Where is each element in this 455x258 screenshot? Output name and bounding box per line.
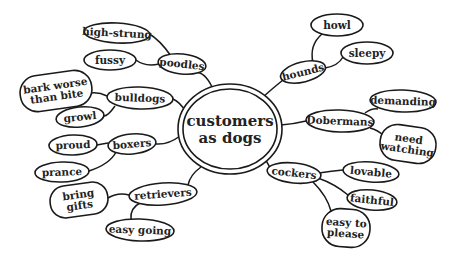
edge-poodles-to-fussy bbox=[136, 60, 159, 65]
edge-retrievers-to-bring-gifts bbox=[108, 194, 129, 198]
edge-hounds-to-howl bbox=[312, 34, 322, 63]
node-label: fussy bbox=[95, 54, 126, 66]
node-easy-going[interactable]: easy going bbox=[106, 218, 175, 242]
node-label: easy going bbox=[109, 223, 173, 237]
node-lovable[interactable]: lovable bbox=[342, 160, 400, 185]
mind-map: poodleshigh-strungfussybulldogsbark wors… bbox=[0, 0, 455, 258]
node-bulldogs[interactable]: bulldogs bbox=[107, 86, 174, 110]
node-fussy[interactable]: fussy bbox=[84, 50, 136, 70]
node-prance[interactable]: prance bbox=[35, 161, 90, 183]
edge-center-to-hounds bbox=[263, 80, 283, 97]
edge-boxers-to-proud bbox=[97, 143, 108, 145]
node-label: sleepy bbox=[349, 47, 387, 59]
node-sleepy[interactable]: sleepy bbox=[341, 42, 393, 64]
edge-center-to-boxers bbox=[156, 136, 180, 144]
node-need-watching[interactable]: needwatching bbox=[378, 122, 438, 165]
node-howl[interactable]: howl bbox=[311, 14, 363, 36]
node-label: howl bbox=[323, 19, 351, 31]
node-dobermans[interactable]: Dobermans bbox=[306, 109, 375, 133]
node-poodles[interactable]: poodles bbox=[157, 52, 207, 77]
node-label: proud bbox=[55, 138, 91, 151]
node-demanding[interactable]: demanding bbox=[370, 89, 437, 113]
node-boxers[interactable]: boxers bbox=[107, 132, 157, 156]
edge-bulldogs-to-bark-worse-than-bite bbox=[91, 93, 107, 96]
edge-center-to-dobermans bbox=[281, 121, 306, 125]
edge-center-to-poodles bbox=[195, 72, 212, 87]
node-cockers[interactable]: cockers bbox=[266, 160, 322, 186]
edge-center-to-retrievers bbox=[188, 167, 201, 185]
node-label: as dogs bbox=[199, 129, 262, 147]
node-proud[interactable]: proud bbox=[49, 134, 98, 156]
edge-cockers-to-easy-to-please bbox=[313, 182, 331, 211]
node-label: demanding bbox=[370, 94, 437, 108]
edge-hounds-to-sleepy bbox=[325, 57, 343, 68]
edge-retrievers-to-easy-going bbox=[131, 203, 140, 219]
node-label: prance bbox=[42, 165, 83, 178]
node-label: bulldogs bbox=[115, 91, 166, 105]
node-label: Dobermans bbox=[306, 114, 374, 128]
edge-dobermans-to-demanding bbox=[365, 109, 378, 113]
edge-cockers-to-lovable bbox=[319, 170, 343, 173]
node-label: customers bbox=[186, 112, 273, 130]
node-retrievers[interactable]: retrievers bbox=[128, 181, 197, 208]
node-bring-gifts[interactable]: bringgifts bbox=[48, 180, 110, 220]
node-easy-to-please[interactable]: easy toplease bbox=[321, 207, 372, 248]
edge-bulldogs-to-growl bbox=[104, 106, 115, 116]
node-high-strung[interactable]: high-strung bbox=[82, 21, 153, 45]
edge-boxers-to-prance bbox=[89, 152, 116, 171]
center-node: customersas dogs bbox=[178, 84, 282, 174]
mind-map-canvas: poodleshigh-strungfussybulldogsbark wors… bbox=[0, 0, 455, 258]
node-hounds[interactable]: hounds bbox=[278, 57, 327, 88]
